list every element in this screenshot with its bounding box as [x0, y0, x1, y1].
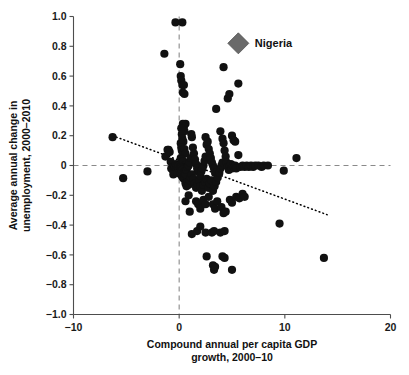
data-point	[275, 220, 283, 228]
data-point	[186, 208, 194, 216]
highlight-marker-nigeria	[228, 33, 249, 54]
y-tick-label: −0.6	[46, 249, 67, 261]
data-point	[234, 79, 242, 87]
data-point	[143, 167, 151, 175]
data-point	[320, 254, 328, 262]
data-point	[219, 139, 227, 147]
y-tick-label: 1.0	[52, 10, 67, 22]
data-point	[219, 63, 227, 71]
data-point	[166, 148, 174, 156]
y-tick-label: 0	[61, 159, 67, 171]
data-point	[211, 263, 219, 271]
data-point	[119, 174, 127, 182]
x-tick-label: 20	[385, 321, 397, 333]
data-point	[109, 133, 117, 141]
y-tick-label: −0.8	[46, 278, 67, 290]
data-point	[187, 130, 195, 138]
highlight-label-nigeria: Nigeria	[255, 37, 293, 49]
data-point	[178, 18, 186, 26]
data-point	[160, 50, 168, 58]
x-tick-label: 10	[279, 321, 291, 333]
data-point	[225, 90, 233, 98]
data-point	[216, 127, 224, 135]
y-tick-label: −0.2	[46, 189, 67, 201]
data-point	[280, 167, 288, 175]
data-point	[180, 81, 188, 89]
x-tick-label: −10	[65, 321, 83, 333]
data-point	[221, 227, 229, 235]
y-tick-label: 0.8	[52, 40, 67, 52]
y-tick-label: 0.6	[52, 70, 67, 82]
y-axis-title-line1: Average annual change in	[7, 101, 19, 231]
data-point	[176, 60, 184, 68]
data-point	[201, 200, 209, 208]
y-tick-label: 0.2	[52, 129, 67, 141]
highlight-marker-group: Nigeria	[228, 33, 293, 54]
data-point	[241, 193, 249, 201]
data-point	[205, 193, 213, 201]
y-tick-label: −0.4	[46, 219, 67, 231]
data-point	[264, 161, 272, 169]
data-point	[180, 90, 188, 98]
data-points-group	[109, 18, 329, 274]
x-tick-label: 0	[176, 321, 182, 333]
y-tick-label: 0.4	[52, 100, 67, 112]
data-point	[185, 191, 193, 199]
data-point	[212, 105, 220, 113]
scatter-plot-figure: Nigeria 1.00.80.60.40.20−0.2−0.4−0.6−0.8…	[0, 0, 409, 375]
x-axis-title-line1: Compound annual per capita GDP	[147, 338, 317, 350]
data-point	[231, 138, 239, 146]
y-axis-title-line2: unemployment, 2000–2010	[20, 99, 32, 232]
data-point	[222, 208, 230, 216]
data-point	[292, 154, 300, 162]
chart-canvas: Nigeria 1.00.80.60.40.20−0.2−0.4−0.6−0.8…	[0, 0, 409, 375]
data-point	[221, 254, 229, 262]
data-point	[203, 252, 211, 260]
data-point	[204, 138, 212, 146]
y-tick-label: −1.0	[46, 308, 67, 320]
data-point	[234, 151, 242, 159]
data-point	[228, 266, 236, 274]
x-axis-title-line2: growth, 2000–10	[191, 351, 273, 363]
